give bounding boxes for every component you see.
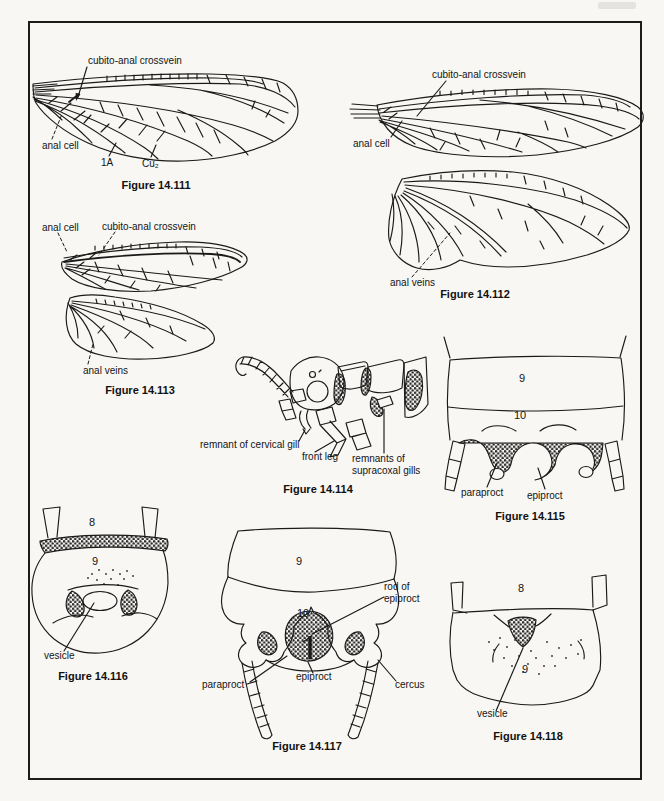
cervical-gill-leader-line <box>299 430 305 441</box>
fig-14-116-abdomen-drawing <box>32 507 168 653</box>
fig111-label-cu2: Cu₂ <box>142 158 159 170</box>
cercus-right <box>348 661 378 739</box>
costal-crossvein-ladder <box>430 173 507 180</box>
leader-arrowhead <box>76 93 81 101</box>
vesicle-oval <box>83 592 117 611</box>
fig116-segment-8: 8 <box>89 516 95 528</box>
cercus-left <box>445 441 465 491</box>
cercus-left <box>242 661 272 739</box>
fig118-caption: Figure 14.118 <box>463 730 593 742</box>
segment-divider <box>228 577 394 592</box>
cercus-right <box>605 441 624 491</box>
fig-14-113-forewing-drawing <box>58 232 247 291</box>
fig112-label-crossvein: cubito-anal crossvein <box>432 69 526 81</box>
fig116-segment-9: 9 <box>92 555 98 567</box>
fig117-segment-10: 10 <box>297 607 309 619</box>
middle-leg <box>346 419 371 450</box>
fig114-label-front-leg: front leg <box>302 451 338 463</box>
fig115-caption: Figure 14.115 <box>465 510 595 522</box>
paraproct-lobe-right <box>579 467 593 478</box>
fig-14-112-forewing-drawing <box>350 81 643 157</box>
scanned-book-page: cubito-anal crossvein anal cell 1A Cu₂ F… <box>0 0 664 801</box>
segment-divider <box>448 406 623 411</box>
mesonotum-plate <box>368 360 404 393</box>
palp <box>279 399 296 420</box>
fig113-label-anal-cell: anal cell <box>42 222 79 234</box>
fig114-label-supracoxal-gills: remnants of supracoxal gills <box>352 453 428 476</box>
fig117-label-rod-of-epiproct: rod of epiproct <box>384 581 436 604</box>
crossvein-leader-line <box>78 67 87 97</box>
fig-14-112-hindwing-drawing <box>389 171 630 277</box>
sparse-stipple-dots <box>87 569 134 586</box>
fig113-caption: Figure 14.113 <box>75 384 205 396</box>
anal-veins-leader-line <box>412 233 450 277</box>
fig115-segment-9: 9 <box>519 372 525 384</box>
supracoxal-gill-stipple <box>405 370 423 410</box>
anal-veins-leader-line <box>88 344 93 364</box>
anal-cell-leader-line <box>58 233 67 252</box>
segment-9-outline <box>228 528 396 579</box>
paraproct-leader-line <box>250 656 287 682</box>
anal-veins <box>390 193 463 262</box>
fig112-label-anal-cell: anal cell <box>353 138 390 150</box>
costal-crossvein-ladder <box>440 90 528 96</box>
fig111-label-crossvein: cubito-anal crossvein <box>88 55 182 67</box>
fig-14-117-abdomen-drawing <box>221 528 398 739</box>
fig114-label-cervical-gill: remnant of cervical gill <box>200 439 299 451</box>
vesicle-leader-line <box>496 648 523 711</box>
fig-14-118-abdomen-drawing <box>450 575 607 711</box>
cercus-leader-line <box>378 660 396 681</box>
fig113-label-anal-veins: anal veins <box>83 365 128 377</box>
fig115-label-epiproct: epiproct <box>527 490 563 502</box>
front-leg <box>316 407 346 457</box>
fig117-label-epiproct: epiproct <box>296 671 332 683</box>
segment-9-outline <box>32 550 168 653</box>
wing-outline <box>389 171 630 270</box>
fig112-caption: Figure 14.112 <box>410 288 540 300</box>
fig117-label-paraproct: paraproct <box>202 679 244 691</box>
ocellus <box>310 372 316 378</box>
anal-cell-leader-line <box>391 121 402 137</box>
fig116-caption: Figure 14.116 <box>28 670 158 682</box>
fig116-label-vesicle: vesicle <box>44 650 75 662</box>
fig115-segment-10: 10 <box>514 409 526 421</box>
compound-eye <box>307 381 328 402</box>
segment-8-stipple-band <box>40 535 168 553</box>
fig117-segment-9: 9 <box>296 555 302 567</box>
segment-divider <box>454 609 593 613</box>
segment-9-outline <box>447 356 624 440</box>
wing-outline <box>66 295 214 359</box>
fig112-label-anal-veins: anal veins <box>390 277 435 289</box>
fig118-label-vesicle: vesicle <box>477 708 508 720</box>
fig118-segment-9: 9 <box>522 663 528 675</box>
fig117-caption: Figure 14.117 <box>242 740 372 752</box>
crossvein-leader-line <box>417 81 446 116</box>
fig111-label-1a: 1A <box>101 157 113 169</box>
fig114-caption: Figure 14.114 <box>253 483 383 495</box>
fig117-label-cercus: cercus <box>395 679 424 691</box>
scattered-stipple-dots <box>488 637 582 675</box>
fig113-label-crossvein: cubito-anal crossvein <box>102 221 196 233</box>
fig-14-115-abdomen-drawing <box>444 336 626 491</box>
supracoxal-gill-remnant <box>377 396 393 408</box>
fig118-segment-8: 8 <box>518 582 524 594</box>
fig115-label-paraproct: paraproct <box>461 487 503 499</box>
cervical-gill-remnant-stipple <box>334 374 345 405</box>
fig-14-113-hindwing-drawing <box>66 295 214 364</box>
antenna <box>236 357 293 397</box>
vesicle-stipple-patch <box>508 617 536 647</box>
fig111-caption: Figure 14.111 <box>91 179 221 191</box>
fig111-label-anal-cell: anal cell <box>42 140 79 152</box>
